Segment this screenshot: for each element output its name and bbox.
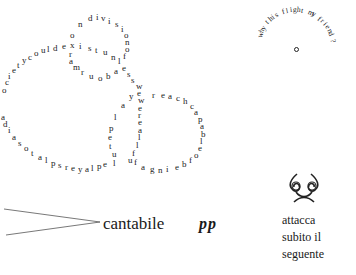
graphic-letter: d <box>88 14 93 23</box>
graphic-letter: b <box>201 130 206 139</box>
graphic-letter: c <box>176 94 180 103</box>
graphic-letter: a <box>168 92 172 101</box>
graphic-letter: b <box>106 72 111 81</box>
graphic-letter: p <box>97 162 102 171</box>
graphic-letter: o <box>2 86 7 95</box>
graphic-letter: e <box>62 42 66 51</box>
graphic-letter: f <box>134 158 137 167</box>
graphic-letter: h <box>183 97 188 106</box>
attacca-line-2: subito il <box>282 229 324 246</box>
graphic-letter: a <box>1 113 5 122</box>
graphic-letter: f <box>123 52 126 61</box>
graphic-letter: c <box>190 102 194 111</box>
graphic-letter: y <box>22 56 27 65</box>
graphic-letter: n <box>111 53 116 62</box>
graphic-letter: a <box>194 108 198 117</box>
graphic-letter: s <box>88 44 92 53</box>
graphic-letter: l <box>47 45 50 54</box>
graphic-letter: s <box>127 70 131 79</box>
graphic-letter: e <box>122 64 126 73</box>
graphic-letter: a <box>121 101 125 110</box>
graphic-letter: y <box>78 165 83 174</box>
graphic-letter: s <box>18 139 22 148</box>
graphic-letter: r <box>81 68 84 77</box>
graphic-letter: o <box>34 49 39 58</box>
graphic-letter: r <box>65 163 68 172</box>
graphic-letter: v <box>101 14 106 23</box>
graphic-letter: u <box>89 72 94 81</box>
dynamic-marking: pp <box>199 215 217 233</box>
graphic-letter: i <box>79 42 82 51</box>
graphic-letter: y <box>129 92 134 101</box>
graphic-letter: s <box>115 20 119 29</box>
fermata-dot-icon <box>294 47 299 52</box>
graphic-letter: d <box>53 44 58 53</box>
graphic-letter: l <box>118 57 121 66</box>
attacca-line-1: attacca <box>282 212 324 229</box>
graphic-letter: p <box>198 115 203 124</box>
attacca-instruction: attacca subito il seguente <box>282 212 324 263</box>
graphic-letter: i <box>166 165 169 174</box>
graphic-letter: p <box>51 159 56 168</box>
graphic-letter: m <box>73 63 80 72</box>
graphic-letter: u <box>103 48 108 57</box>
graphic-letter: a <box>85 165 89 174</box>
decrescendo-hairpin-icon <box>0 205 102 237</box>
graphic-letter: i <box>108 17 111 26</box>
graphic-letter: l <box>113 159 116 168</box>
double-coda-ornament-icon <box>286 172 322 206</box>
graphic-letter: f <box>189 156 192 165</box>
graphic-letter: t <box>95 46 98 55</box>
graphic-letter: a <box>12 133 16 142</box>
attacca-line-3: seguente <box>282 246 324 263</box>
graphic-letter: a <box>114 67 118 76</box>
graphic-letter: c <box>28 53 32 62</box>
graphic-letter: t <box>17 61 20 70</box>
graphic-letter: i <box>96 13 99 22</box>
graphic-letter: a <box>38 153 42 162</box>
graphic-letter: e <box>12 66 16 75</box>
graphic-letter: e <box>175 163 179 172</box>
graphic-letter: o <box>98 74 103 83</box>
arc-letter: l <box>285 7 289 15</box>
graphic-letter: u <box>128 156 133 165</box>
graphic-letter: r <box>152 91 155 100</box>
graphic-letter: l <box>91 164 94 173</box>
graphic-letter: e <box>161 91 165 100</box>
graphic-letter: n <box>78 20 83 29</box>
graphic-letter: e <box>71 164 75 173</box>
graphic-letter: l <box>136 141 139 150</box>
graphic-letter: a <box>141 163 145 172</box>
graphic-letter: u <box>41 46 46 55</box>
graphic-letter: t <box>31 149 34 158</box>
graphic-letter: o <box>70 31 75 40</box>
arc-letter: t <box>300 7 304 15</box>
arc-letter: i <box>289 6 292 14</box>
graphic-letter: s <box>58 161 62 170</box>
graphic-letter: s <box>131 76 135 85</box>
graphic-letter: l <box>114 113 117 122</box>
arc-letter: d <box>327 31 336 37</box>
graphic-letter: n <box>158 166 163 175</box>
arc-letter: ? <box>329 39 337 44</box>
tempo-marking: cantabile <box>103 214 164 234</box>
graphic-letter: b <box>182 160 187 169</box>
graphic-letter: o <box>24 144 29 153</box>
graphic-letter: l <box>45 156 48 165</box>
graphic-letter: i <box>8 126 11 135</box>
graphic-letter: g <box>150 165 155 174</box>
graphic-letter: e <box>103 160 107 169</box>
